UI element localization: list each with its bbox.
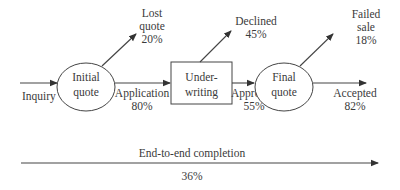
end-to-end-value: 36% [181,170,203,182]
application-label: Application [115,87,170,100]
accepted-value: 82% [344,100,366,112]
accepted-label: Accepted [333,87,377,100]
lost-quote-value: 20% [141,33,163,45]
final-quote-label-line1: Final [272,71,296,83]
process-diagram: Inquiry Initial quote Lost quote 20% App… [0,0,400,190]
inquiry-label: Inquiry [22,90,56,103]
declined-value: 45% [245,28,267,40]
application-value: 80% [131,100,153,112]
final-quote-label-line2: quote [271,86,297,99]
lost-quote-label-line1: Lost [142,7,163,19]
declined-label: Declined [235,15,277,27]
failed-sale-label-line1: Failed [352,8,381,20]
lost-quote-label-line2: quote [139,20,165,33]
underwriting-label-line2: writing [185,86,218,99]
end-to-end-label: End-to-end completion [139,147,246,160]
failed-sale-label-line2: sale [357,21,375,33]
declined-arrow [200,31,231,62]
lost-quote-arrow [102,34,136,66]
initial-quote-label-line2: quote [73,86,99,99]
initial-quote-label-line1: Initial [72,71,99,83]
failed-sale-value: 18% [355,34,377,46]
underwriting-label-line1: Under- [185,71,218,83]
failed-sale-arrow [300,34,333,66]
